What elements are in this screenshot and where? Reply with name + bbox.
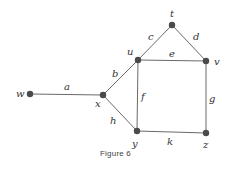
edge-e: [138, 60, 206, 61]
edge-h: [103, 95, 137, 131]
edge-a: [30, 94, 103, 95]
vertex-labels: w x u t v y z: [16, 8, 220, 150]
vertex-label-u: u: [127, 46, 133, 57]
edge-c: [138, 25, 172, 60]
vertex-label-x: x: [95, 98, 101, 109]
vertex-label-y: y: [131, 138, 138, 149]
edges: [30, 25, 206, 133]
vertex-label-w: w: [16, 88, 25, 99]
edge-label-k: k: [167, 136, 173, 147]
vertex-x: [100, 92, 106, 98]
vertex-z: [203, 130, 209, 136]
edge-label-c: c: [148, 31, 154, 42]
edge-label-d: d: [193, 31, 199, 42]
vertex-u: [135, 57, 141, 63]
vertex-t: [169, 22, 175, 28]
vertex-label-t: t: [170, 8, 175, 19]
edge-f: [137, 60, 138, 131]
edge-label-b: b: [112, 68, 118, 79]
edge-label-a: a: [64, 81, 70, 92]
edge-label-h: h: [110, 115, 116, 126]
graph-diagram: a b c d e f g h k w x u t v y z: [0, 0, 231, 173]
edge-label-e: e: [169, 48, 175, 59]
vertices: [27, 22, 209, 136]
edge-label-g: g: [209, 93, 215, 104]
vertex-label-v: v: [214, 56, 220, 67]
edge-label-f: f: [140, 91, 147, 102]
vertex-w: [27, 91, 33, 97]
edge-d: [172, 25, 206, 61]
edge-k: [137, 131, 206, 133]
vertex-v: [203, 58, 209, 64]
edge-b: [103, 60, 138, 95]
figure-caption: Figure 6: [0, 149, 231, 158]
vertex-y: [134, 128, 140, 134]
